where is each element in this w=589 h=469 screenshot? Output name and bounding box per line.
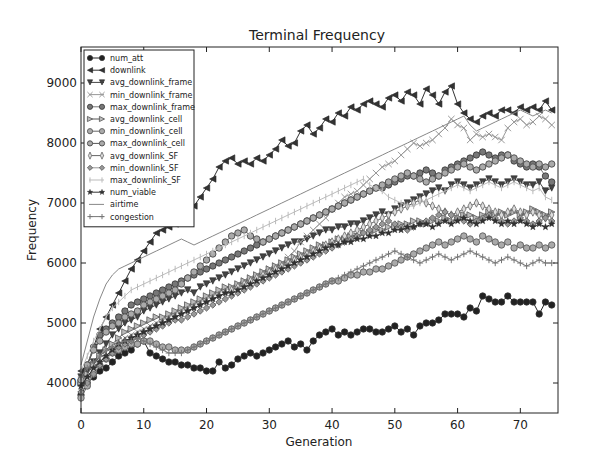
x-axis-label: Generation (286, 435, 353, 449)
series-congestion (78, 248, 555, 380)
chart-title: Terminal Frequency (248, 27, 385, 43)
y-axis-label: Frequency (25, 199, 39, 261)
x-tick-label: 0 (77, 418, 85, 432)
legend-label: num_viable (110, 188, 156, 197)
legend: num_attdownlinkavg_downlink_framemin_dow… (84, 50, 195, 227)
y-tick-label: 5000 (46, 316, 77, 330)
x-tick-label: 10 (136, 418, 151, 432)
legend-item: avg_downlink_SF (88, 152, 178, 161)
legend-label: avg_downlink_cell (110, 115, 182, 124)
legend-label: min_downlink_cell (110, 127, 183, 136)
x-tick-label: 60 (450, 418, 465, 432)
legend-label: avg_downlink_SF (110, 152, 179, 161)
legend-label: min_downlink_frame (110, 91, 193, 100)
legend-label: max_downlink_cell (110, 139, 185, 148)
x-tick-label: 20 (199, 418, 214, 432)
x-tick-label: 70 (513, 418, 528, 432)
x-tick-label: 40 (324, 418, 339, 432)
legend-label: max_downlink_SF (110, 176, 181, 185)
legend-label: num_att (110, 54, 143, 63)
x-tick-label: 30 (262, 418, 277, 432)
y-tick-label: 8000 (46, 136, 77, 150)
legend-label: max_downlink_frame (110, 103, 195, 112)
y-tick-label: 6000 (46, 256, 77, 270)
legend-label: avg_downlink_frame (110, 78, 192, 87)
y-tick-label: 4000 (46, 376, 77, 390)
legend-label: min_downlink_SF (110, 164, 179, 173)
x-tick-label: 50 (387, 418, 402, 432)
chart: Terminal Frequency 010203040506070 40005… (0, 0, 589, 469)
legend-label: downlink (110, 66, 146, 75)
series-min_downlink_cell (78, 233, 555, 401)
y-tick-label: 9000 (46, 76, 77, 90)
y-tick-label: 7000 (46, 196, 77, 210)
legend-label: airtime (110, 200, 139, 209)
legend-label: congestion (110, 213, 154, 222)
